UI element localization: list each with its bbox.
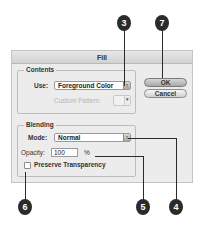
preserve-transparency-checkbox[interactable] [24,162,31,169]
opacity-input[interactable]: 100 [51,148,78,157]
preserve-transparency-label[interactable]: Preserve Transparency [34,161,106,169]
mode-select-value: Normal [58,134,80,141]
custom-pattern-label: Custom Pattern: [54,97,101,105]
ok-button[interactable]: OK [144,78,187,87]
chevron-down-icon: ▾ [124,96,130,105]
opacity-label: Opacity: [21,149,45,157]
callout-5-leader [143,156,144,202]
contents-group-label: Contents [24,66,56,74]
use-select-value: Foreground Color [58,82,113,89]
callout-4-leader-h [128,138,177,139]
use-select[interactable]: Foreground Color ↕ [54,81,131,90]
custom-pattern-picker: ▾ [113,95,131,106]
callout-6: 6 [18,199,32,215]
mode-label: Mode: [28,134,47,142]
dialog-title: Fill [12,51,192,64]
callout-4-leader [176,138,177,202]
callout-3: 3 [117,15,131,31]
callout-5-leader-h [95,156,144,157]
contents-group: Contents Use: Foreground Color ↕ Custom … [17,70,136,114]
callout-4: 4 [169,199,183,215]
mode-select[interactable]: Normal ↕ [54,133,131,142]
callout-7: 7 [155,15,169,31]
callout-3-leader [124,30,125,86]
blending-group: Blending Mode: Normal ↕ Opacity: 100 % P… [17,125,136,177]
callout-7-leader [162,30,163,78]
callout-6-leader [25,172,26,202]
cancel-button[interactable]: Cancel [144,89,187,98]
fill-dialog: Fill Contents Use: Foreground Color ↕ Cu… [11,50,193,183]
opacity-unit: % [84,149,90,157]
blending-group-label: Blending [24,121,56,129]
callout-5: 5 [136,199,150,215]
use-label: Use: [34,82,48,90]
